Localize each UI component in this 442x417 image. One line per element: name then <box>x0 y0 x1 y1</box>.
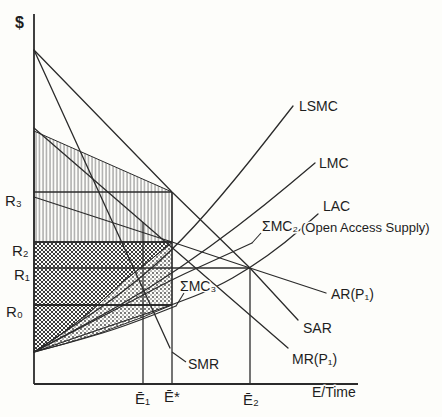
leader-sigma-mc3 <box>176 293 184 306</box>
tick-e2: Ē₂ <box>243 391 259 408</box>
leader-smr <box>172 352 186 362</box>
y-axis-title: $ <box>15 14 24 31</box>
label-ar: AR(P₁) <box>331 286 374 302</box>
tick-r3: R₃ <box>5 192 22 209</box>
tick-e1: Ē₁ <box>135 390 150 407</box>
economics-figure: $R₃R₂R₁R₀Ē₁Ē*Ē₂E/TimeLSMCLMCLAC(Open Acc… <box>0 0 442 417</box>
tick-r2: R₂ <box>12 242 29 259</box>
label-lmc: LMC <box>319 155 349 171</box>
tick-estar: Ē* <box>164 388 180 405</box>
label-sar: SAR <box>303 320 332 336</box>
tick-r1: R₁ <box>14 266 30 283</box>
leader-sigma-mc2 <box>252 233 261 243</box>
label-lsmc: LSMC <box>299 98 338 114</box>
label-sigma-mc2: ΣMC₂ <box>262 218 298 234</box>
label-lac: LAC <box>323 198 350 214</box>
x-axis-title: E/Time <box>312 384 356 400</box>
tick-r0: R₀ <box>6 303 23 320</box>
label-smr: SMR <box>188 356 219 372</box>
label-leaders-layer <box>172 233 261 362</box>
label-open-access: (Open Access Supply) <box>301 220 430 235</box>
rent-area-hatched <box>34 131 172 242</box>
label-mr: MR(P₁) <box>292 351 337 367</box>
label-sigma-mc3: ΣMC₃ <box>180 278 216 294</box>
figure-canvas: $R₃R₂R₁R₀Ē₁Ē*Ē₂E/TimeLSMCLMCLAC(Open Acc… <box>0 0 442 417</box>
